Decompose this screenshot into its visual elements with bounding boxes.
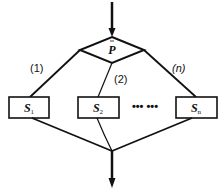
branch-label-1: (1) <box>30 62 43 74</box>
exit-arrow <box>109 151 116 188</box>
block-subscript: n <box>198 108 202 116</box>
merge-lines <box>32 118 192 151</box>
condition-label: P <box>108 43 116 57</box>
branch-label-2: (2) <box>114 73 127 85</box>
decision-diamond: P <box>80 37 144 63</box>
block-subscript: 2 <box>100 108 104 116</box>
multi-branch-flowchart: P (1) (2) (n) S1 S2 Sn ••• ••• <box>0 0 224 193</box>
process-block-s1: S1 <box>9 97 49 118</box>
branch-label-n: (n) <box>172 62 186 74</box>
process-block-s2: S2 <box>78 97 119 118</box>
block-subscript: 1 <box>31 108 35 116</box>
ellipsis: ••• ••• <box>132 100 158 112</box>
process-block-sn: Sn <box>176 97 217 118</box>
entry-arrow <box>109 2 116 37</box>
